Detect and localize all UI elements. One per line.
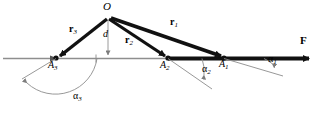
force-vector-diagram: O A3 A2 A1 r3 r2 r1 F d α1 α2 α3 (0, 0, 320, 115)
point-label-A1: A1 (219, 59, 229, 71)
angle-label-alpha1: α1 (268, 54, 277, 66)
angle-label-alpha2: α2 (202, 64, 211, 76)
distance-label-d: d (103, 29, 108, 39)
vector-label-r2: r2 (125, 35, 133, 47)
angle-label-alpha2-sub: 2 (207, 68, 211, 76)
point-label-O: O (103, 1, 111, 12)
point-label-A3-sub: 3 (54, 64, 58, 72)
vector-label-r1: r1 (170, 17, 178, 29)
vector-r2-arrow (109, 19, 165, 56)
vector-label-r3: r3 (69, 24, 77, 36)
vector-label-F: F (300, 35, 307, 46)
point-label-A2-sub: 2 (166, 64, 170, 72)
angle-label-alpha1-sub: 1 (273, 58, 277, 66)
vector-label-r2-sub: 2 (129, 39, 133, 47)
alpha3-arc (27, 59, 97, 95)
point-label-A2: A2 (160, 60, 170, 72)
vector-label-r1-sub: 1 (174, 21, 178, 29)
vector-r3-arrow (60, 19, 107, 56)
angle-label-alpha3: α3 (73, 91, 82, 103)
point-label-A3: A3 (48, 60, 58, 72)
vector-label-r3-sub: 3 (73, 28, 77, 36)
point-label-A1-sub: 1 (225, 63, 229, 71)
angle-label-alpha3-sub: 3 (78, 95, 82, 103)
